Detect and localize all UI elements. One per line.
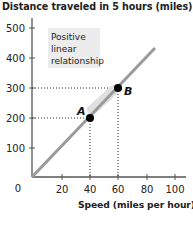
point-a-label: A	[76, 105, 86, 118]
origin-label: 0	[15, 183, 21, 194]
x-tick-label-80: 80	[141, 184, 154, 195]
y-tick-label-500: 500	[6, 23, 25, 34]
point-a	[86, 114, 94, 122]
x-axis-label: Speed (miles per hour)	[78, 199, 193, 210]
annotation-line-1: Positive	[51, 31, 97, 43]
point-b-label: B	[124, 85, 132, 98]
y-tick-label-100: 100	[6, 143, 25, 154]
x-tick-label-40: 40	[84, 184, 97, 195]
x-tick-label-60: 60	[112, 184, 125, 195]
annotation-line-2: linear	[51, 43, 97, 55]
y-tick-label-300: 300	[6, 83, 25, 94]
annotation-box: Positive linear relationship	[48, 28, 100, 68]
y-tick-label-400: 400	[6, 53, 25, 64]
x-tick-label-20: 20	[56, 184, 69, 195]
x-tick-label-100: 100	[165, 184, 184, 195]
annotation-line-3: relationship	[51, 55, 97, 67]
point-b	[114, 84, 122, 92]
y-tick-label-200: 200	[6, 113, 25, 124]
